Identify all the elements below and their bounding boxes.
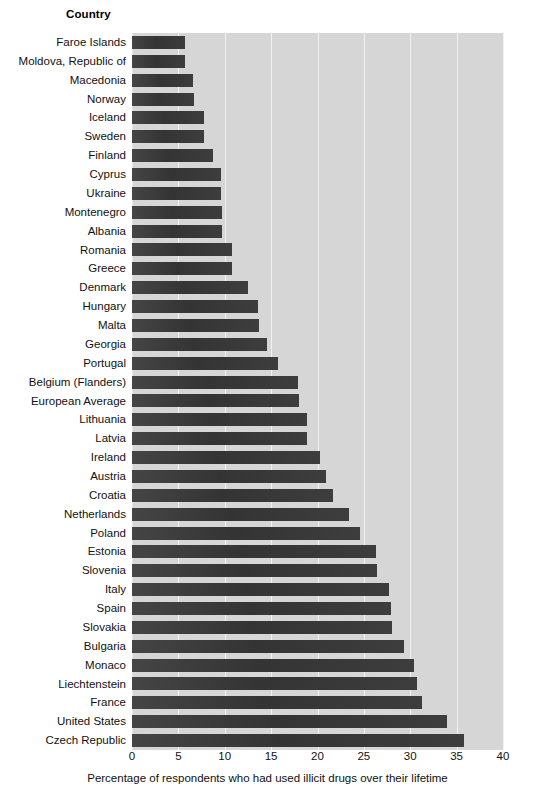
bar-row: Romania — [132, 241, 503, 260]
bar — [132, 225, 222, 238]
category-label: Ukraine — [86, 184, 126, 203]
category-label: Estonia — [88, 542, 126, 561]
bar-row: Malta — [132, 316, 503, 335]
x-tick-label: 10 — [218, 750, 231, 762]
category-label: Hungary — [83, 297, 126, 316]
bar — [132, 508, 349, 521]
category-label: Bulgaria — [84, 637, 126, 656]
category-label: Denmark — [79, 278, 126, 297]
x-axis-caption: Percentage of respondents who had used i… — [0, 772, 535, 784]
bar — [132, 602, 391, 615]
bar-row: European Average — [132, 392, 503, 411]
bar-row: Hungary — [132, 297, 503, 316]
bar-row: Faroe Islands — [132, 33, 503, 52]
category-label: Italy — [105, 580, 126, 599]
category-label: Belgium (Flanders) — [29, 373, 126, 392]
bar — [132, 206, 222, 219]
bar — [132, 696, 422, 709]
bar — [132, 470, 326, 483]
category-label: Georgia — [85, 335, 126, 354]
bar — [132, 357, 278, 370]
bar — [132, 413, 307, 426]
bar — [132, 319, 259, 332]
bar — [132, 243, 232, 256]
bar — [132, 187, 221, 200]
bar — [132, 394, 299, 407]
bar-row: Macedonia — [132, 71, 503, 90]
category-label: Norway — [87, 90, 126, 109]
category-label: Moldova, Republic of — [19, 52, 126, 71]
x-tick-label: 25 — [357, 750, 370, 762]
category-label: Montenegro — [65, 203, 126, 222]
bar-row: Poland — [132, 524, 503, 543]
bar — [132, 564, 377, 577]
x-tick-label: 20 — [311, 750, 324, 762]
category-label: France — [90, 693, 126, 712]
bar-row: Georgia — [132, 335, 503, 354]
bar-row: Denmark — [132, 278, 503, 297]
category-label: Poland — [90, 524, 126, 543]
country-column-header: Country — [66, 8, 111, 20]
bar-row: Slovenia — [132, 561, 503, 580]
bar — [132, 262, 232, 275]
bar — [132, 74, 193, 87]
bar-row: Liechtenstein — [132, 675, 503, 694]
x-tick-label: 40 — [497, 750, 510, 762]
bar — [132, 583, 389, 596]
bar-row: Portugal — [132, 354, 503, 373]
bar — [132, 130, 204, 143]
x-tick-label: 35 — [450, 750, 463, 762]
category-label: Sweden — [84, 127, 126, 146]
bar — [132, 36, 185, 49]
category-label: Spain — [97, 599, 126, 618]
category-label: Croatia — [89, 486, 126, 505]
bar — [132, 527, 360, 540]
bar-row: Ukraine — [132, 184, 503, 203]
x-tick-label: 30 — [404, 750, 417, 762]
bar — [132, 281, 248, 294]
bar-row: Norway — [132, 90, 503, 109]
bar-row: Latvia — [132, 429, 503, 448]
bar — [132, 545, 376, 558]
category-label: Macedonia — [70, 71, 126, 90]
bar — [132, 300, 258, 313]
category-label: Greece — [88, 259, 126, 278]
category-label: Ireland — [91, 448, 126, 467]
bar-row: Italy — [132, 580, 503, 599]
bar-row: Bulgaria — [132, 637, 503, 656]
category-label: Cyprus — [90, 165, 126, 184]
gridline — [503, 33, 504, 750]
bar-row: Iceland — [132, 108, 503, 127]
category-label: Portugal — [83, 354, 126, 373]
category-label: Czech Republic — [45, 731, 126, 750]
bar-row: Croatia — [132, 486, 503, 505]
bar-row: France — [132, 693, 503, 712]
bar — [132, 734, 464, 747]
category-label: European Average — [31, 392, 126, 411]
bar-row: Cyprus — [132, 165, 503, 184]
bar — [132, 338, 267, 351]
bar-row: Finland — [132, 146, 503, 165]
bar-rows: Faroe IslandsMoldova, Republic ofMacedon… — [132, 33, 503, 750]
bar — [132, 659, 414, 672]
category-label: Slovakia — [83, 618, 126, 637]
bar — [132, 55, 185, 68]
category-label: Monaco — [85, 656, 126, 675]
category-label: Slovenia — [82, 561, 126, 580]
bar-row: Monaco — [132, 656, 503, 675]
bar-row: Estonia — [132, 542, 503, 561]
bar — [132, 489, 333, 502]
category-label: Albania — [88, 222, 126, 241]
bar — [132, 168, 221, 181]
x-tick-label: 5 — [175, 750, 181, 762]
bar-row: United States — [132, 712, 503, 731]
category-label: Lithuania — [79, 410, 126, 429]
bar — [132, 621, 392, 634]
x-tick-label: 15 — [265, 750, 278, 762]
category-label: Iceland — [89, 108, 126, 127]
bar — [132, 432, 307, 445]
bar-row: Czech Republic — [132, 731, 503, 750]
category-label: United States — [57, 712, 126, 731]
bar — [132, 640, 404, 653]
bar-chart: Country Faroe IslandsMoldova, Republic o… — [0, 0, 535, 808]
